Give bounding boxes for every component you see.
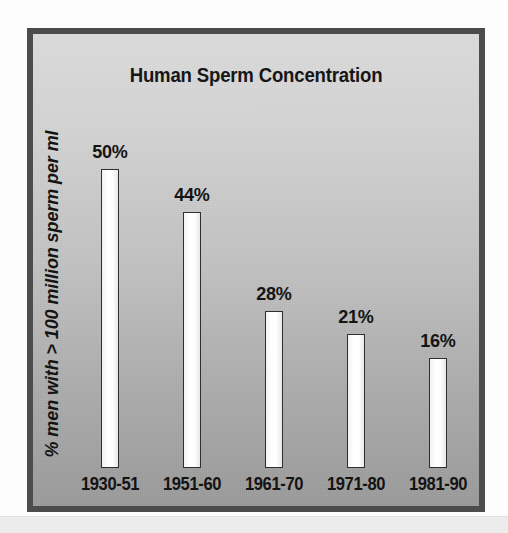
bar-group-3: 21% 1971-80 (315, 34, 397, 506)
category-label: 1971-80 (310, 474, 402, 495)
plot-area: 50% 1930-51 44% 1951-60 28% 1961-70 21% … (69, 34, 479, 506)
bar-group-1: 44% 1951-60 (151, 34, 233, 506)
bar-rect (347, 334, 365, 468)
y-axis-label: % men with > 100 million sperm per ml (42, 131, 63, 458)
bar-rect (265, 311, 283, 468)
bar-rect (429, 358, 447, 468)
bar-group-2: 28% 1961-70 (233, 34, 315, 506)
bar-value-label: 21% (317, 306, 395, 328)
bar-group-4: 16% 1981-90 (397, 34, 479, 506)
category-label: 1930-51 (64, 474, 156, 495)
chart-frame: Human Sperm Concentration % men with > 1… (27, 28, 485, 512)
bar-group-0: 50% 1930-51 (69, 34, 151, 506)
bar-value-label: 16% (399, 330, 477, 352)
y-axis-label-container: % men with > 100 million sperm per ml (35, 94, 69, 494)
bar-value-label: 28% (235, 283, 313, 305)
bar-value-label: 44% (153, 184, 231, 206)
category-label: 1961-70 (228, 474, 320, 495)
category-label: 1951-60 (146, 474, 238, 495)
bar-rect (101, 169, 119, 468)
page-bottom-strip (0, 516, 508, 533)
bar-rect (183, 212, 201, 468)
category-label: 1981-90 (392, 474, 484, 495)
bar-value-label: 50% (71, 141, 149, 163)
